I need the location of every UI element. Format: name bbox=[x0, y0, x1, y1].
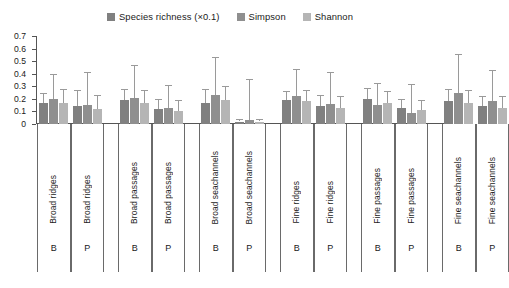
error-bar-cap bbox=[418, 100, 425, 101]
error-bar-line bbox=[296, 69, 297, 97]
bar-with-errorbar bbox=[373, 36, 382, 124]
y-axis-tick bbox=[32, 61, 36, 62]
bar-shannon bbox=[383, 103, 392, 124]
subgroup-cell: B bbox=[361, 224, 395, 272]
bar-with-errorbar bbox=[130, 36, 139, 124]
category-label-row: Broad ridgesBroad ridgesBroad passagesBr… bbox=[36, 124, 450, 224]
error-bar-line bbox=[387, 91, 388, 102]
bar-with-errorbar bbox=[417, 36, 426, 124]
subgroup-cell: P bbox=[395, 224, 429, 272]
category-label: Fine ridges bbox=[326, 179, 335, 224]
category-label: Fine ridges bbox=[292, 179, 301, 224]
y-axis-tick-label: 0.2 bbox=[14, 95, 26, 104]
category-cell: Fine seachannels bbox=[442, 124, 476, 224]
y-axis-tick bbox=[32, 74, 36, 75]
category-cell: Broad ridges bbox=[71, 124, 105, 224]
bar-with-errorbar bbox=[120, 36, 129, 124]
y-axis-tick bbox=[32, 86, 36, 87]
error-bar-line bbox=[178, 100, 179, 111]
error-bar-cap bbox=[246, 79, 253, 80]
y-axis-tick bbox=[32, 111, 36, 112]
legend-swatch-shannon bbox=[303, 13, 311, 21]
bar-simpson bbox=[488, 101, 497, 124]
error-bar-cap bbox=[384, 91, 391, 92]
error-bar-cap bbox=[256, 119, 263, 120]
error-bar-line bbox=[205, 89, 206, 103]
error-bar-line bbox=[377, 83, 378, 106]
bar-shannon bbox=[417, 110, 426, 124]
bar-species-richness bbox=[73, 106, 82, 124]
error-bar-cap bbox=[165, 85, 172, 86]
subgroup-label-row: BPBPBPBPBPBP bbox=[36, 224, 450, 272]
error-bar-cap bbox=[121, 89, 128, 90]
bar-shannon bbox=[302, 101, 311, 124]
bar-with-errorbar bbox=[363, 36, 372, 124]
error-bar-cap bbox=[141, 90, 148, 91]
bar-simpson bbox=[164, 108, 173, 124]
bar-species-richness bbox=[478, 106, 487, 124]
subgroup-label: B bbox=[456, 243, 462, 253]
category-cell: Fine ridges bbox=[314, 124, 348, 224]
bar-group bbox=[152, 36, 186, 124]
bar-with-errorbar bbox=[221, 36, 230, 124]
category-cell: Fine ridges bbox=[280, 124, 314, 224]
subgroup-cell: P bbox=[152, 224, 186, 272]
category-label: Fine seachannels bbox=[488, 155, 497, 224]
error-bar-line bbox=[87, 72, 88, 105]
category-cell: Broad seachannels bbox=[233, 124, 267, 224]
category-label: Fine passages bbox=[407, 166, 416, 224]
bar-with-errorbar bbox=[201, 36, 210, 124]
bar-with-errorbar bbox=[73, 36, 82, 124]
bar-with-errorbar bbox=[164, 36, 173, 124]
subgroup-label: B bbox=[294, 243, 300, 253]
error-bar-cap bbox=[398, 99, 405, 100]
error-bar-cap bbox=[445, 89, 452, 90]
legend-swatch-simpson bbox=[237, 13, 245, 21]
bar-group bbox=[37, 36, 71, 124]
category-label: Broad passages bbox=[130, 160, 139, 224]
error-bar-cap bbox=[317, 95, 324, 96]
subgroup-cell: B bbox=[37, 224, 71, 272]
bar-with-errorbar bbox=[383, 36, 392, 124]
error-bar-cap bbox=[283, 91, 290, 92]
error-bar-cap bbox=[293, 69, 300, 70]
bar-with-errorbar bbox=[245, 36, 254, 124]
legend-item-species-richness: Species richness (×0.1) bbox=[107, 11, 220, 22]
error-bar-line bbox=[468, 90, 469, 103]
bar-group bbox=[199, 36, 233, 124]
category-label: Broad passages bbox=[164, 160, 173, 224]
bar-simpson bbox=[49, 99, 58, 124]
error-bar-line bbox=[411, 84, 412, 113]
y-axis-tick-label: 0.3 bbox=[14, 82, 26, 91]
subgroup-label: B bbox=[213, 243, 219, 253]
y-axis-tick-label: 0 bbox=[21, 120, 26, 129]
subgroup-cell: P bbox=[71, 224, 105, 272]
y-axis-tick-label: 0.5 bbox=[14, 57, 26, 66]
error-bar-line bbox=[63, 89, 64, 103]
category-label: Broad seachannels bbox=[245, 149, 254, 224]
error-bar-line bbox=[340, 96, 341, 107]
error-bar-cap bbox=[489, 70, 496, 71]
error-bar-line bbox=[286, 91, 287, 100]
subgroup-cell: P bbox=[476, 224, 509, 272]
bar-with-errorbar bbox=[444, 36, 453, 124]
error-bar-line bbox=[367, 88, 368, 99]
error-bar-line bbox=[158, 99, 159, 109]
bar-with-errorbar bbox=[464, 36, 473, 124]
bar-with-errorbar bbox=[292, 36, 301, 124]
legend-item-shannon: Shannon bbox=[303, 11, 353, 22]
error-bar-line bbox=[77, 90, 78, 106]
error-bar-cap bbox=[479, 96, 486, 97]
error-bar-line bbox=[97, 95, 98, 109]
bar-with-errorbar bbox=[397, 36, 406, 124]
error-bar-line bbox=[124, 89, 125, 100]
error-bar-cap bbox=[84, 72, 91, 73]
category-cell: Fine seachannels bbox=[476, 124, 509, 224]
error-bar-line bbox=[320, 95, 321, 106]
bar-with-errorbar bbox=[93, 36, 102, 124]
legend-label-species-richness: Species richness (×0.1) bbox=[119, 11, 220, 22]
subgroup-cell: P bbox=[233, 224, 267, 272]
error-bar-line bbox=[53, 74, 54, 99]
bar-simpson bbox=[130, 98, 139, 124]
